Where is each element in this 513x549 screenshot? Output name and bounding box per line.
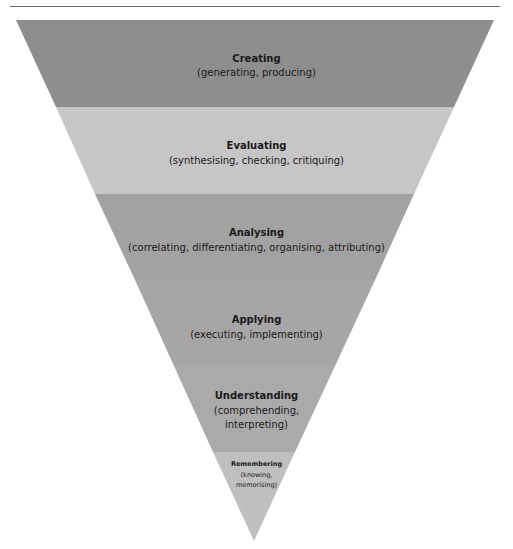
level-detail-understanding-line1: (comprehending, bbox=[0, 406, 513, 416]
level-title-evaluating: Evaluating bbox=[0, 141, 513, 151]
level-detail-understanding-line2: interpreting) bbox=[0, 420, 513, 430]
level-title-analysing: Analysing bbox=[0, 228, 513, 238]
level-detail-analysing: (correlating, differentiating, organisin… bbox=[0, 243, 513, 253]
level-title-applying: Applying bbox=[0, 315, 513, 325]
level-detail-evaluating: (synthesising, checking, critiquing) bbox=[0, 156, 513, 166]
level-title-creating: Creating bbox=[0, 54, 513, 64]
level-detail-remembering-line1: (knowing, bbox=[0, 472, 513, 479]
level-detail-remembering-line2: memorising) bbox=[0, 482, 513, 489]
level-title-remembering: Remembering bbox=[0, 461, 513, 468]
level-detail-applying: (executing, implementing) bbox=[0, 330, 513, 340]
level-title-understanding: Understanding bbox=[0, 391, 513, 401]
level-detail-creating: (generating, producing) bbox=[0, 68, 513, 78]
